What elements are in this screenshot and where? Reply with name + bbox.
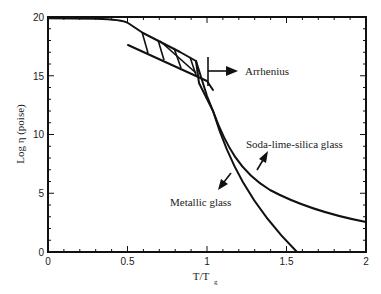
- arrhenius-line: [128, 45, 213, 90]
- arrow-right-icon: [226, 66, 238, 76]
- soda-lime-label: Soda-lime-silica glass: [246, 138, 343, 150]
- x-axis-title: T/T g: [193, 270, 218, 286]
- x-axis-title-subscript: g: [214, 278, 218, 286]
- y-tick-20: 20: [33, 12, 45, 23]
- x-tick-1-5: 1.5: [280, 256, 294, 267]
- y-tick-5: 5: [38, 188, 44, 199]
- metallic-label: Metallic glass: [170, 196, 231, 208]
- arrow-down-left-icon: [218, 179, 228, 190]
- metallic-glass-curve: [196, 61, 297, 252]
- y-tick-15: 15: [33, 71, 45, 82]
- arrhenius-label: Arrhenius: [245, 65, 289, 77]
- x-tick-2: 2: [363, 256, 369, 267]
- x-axis-title-main: T/T: [193, 270, 210, 282]
- soda-lime-silica-curve: [48, 18, 366, 222]
- soda-lime-annotation: Soda-lime-silica glass: [246, 138, 343, 170]
- arrow-up-right-icon: [259, 151, 268, 163]
- y-axis-title: Log η (poise): [14, 104, 27, 164]
- x-tick-1: 1: [204, 256, 210, 267]
- viscosity-chart: 0 0.5 1 1.5 2 0 5 10 15 20 Log η (poise)…: [0, 0, 381, 294]
- y-tick-10: 10: [33, 129, 45, 140]
- metallic-annotation: Metallic glass: [170, 173, 231, 208]
- y-ticks: [48, 29, 366, 241]
- x-ticks: [64, 17, 350, 252]
- plot-frame: [48, 17, 366, 252]
- hatched-arrhenius-region: [142, 32, 196, 75]
- x-tick-0-5: 0.5: [121, 256, 135, 267]
- y-tick-0: 0: [38, 247, 44, 258]
- arrhenius-annotation: Arrhenius: [208, 57, 289, 86]
- x-tick-0: 0: [45, 256, 51, 267]
